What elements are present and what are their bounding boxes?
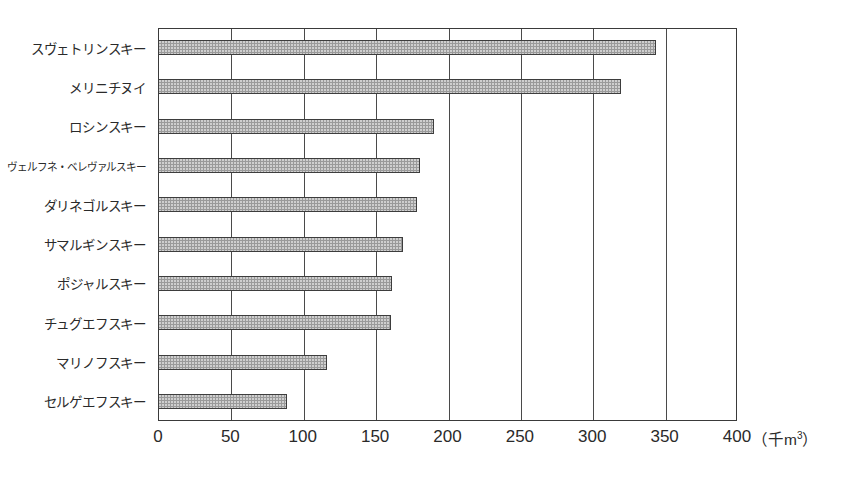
bar: [158, 119, 434, 134]
x-axis-tick-label: 200: [433, 427, 461, 447]
y-axis-tick: チュグエフスキー: [0, 303, 152, 342]
bar: [158, 40, 656, 55]
y-axis-tick-label: スヴェトリンスキー: [31, 38, 146, 58]
bar-row: [158, 303, 737, 342]
y-axis-tick-label: メリニチヌイ: [69, 77, 146, 97]
x-axis-tick-label: 100: [289, 427, 317, 447]
bar: [158, 79, 621, 94]
y-axis-tick: メリニチヌイ: [0, 67, 152, 106]
bar-row: [158, 342, 737, 381]
y-axis-tick-label: ロシンスキー: [69, 116, 146, 136]
x-axis-labels: 0 50 100 150 200 250 300 350 400 （千m3）: [0, 427, 845, 457]
bar-row: [158, 382, 737, 421]
bar-chart: スヴェトリンスキー メリニチヌイ ロシンスキー ヴェルフネ・ベレヴァルスキー ダ…: [0, 0, 845, 479]
y-axis-tick-label: チュグエフスキー: [44, 313, 146, 333]
y-axis-tick: ポジャルスキー: [0, 264, 152, 303]
x-axis-tick-label: 400: [723, 427, 751, 447]
y-axis-tick: サマルギンスキー: [0, 224, 152, 263]
bar-row: [158, 264, 737, 303]
bar: [158, 197, 417, 212]
bar: [158, 276, 392, 291]
bar-row: [158, 146, 737, 185]
bar-row: [158, 185, 737, 224]
bar: [158, 315, 391, 330]
bar-row: [158, 107, 737, 146]
x-axis-tick-label: 50: [221, 427, 240, 447]
y-axis-tick: ロシンスキー: [0, 107, 152, 146]
bar-row: [158, 224, 737, 263]
bar: [158, 158, 420, 173]
bar: [158, 355, 327, 370]
x-axis-unit-label: （千m3）: [752, 427, 818, 449]
y-axis-tick-label: サマルギンスキー: [44, 234, 146, 254]
y-axis-tick: セルゲエフスキー: [0, 382, 152, 421]
bar: [158, 237, 403, 252]
y-axis-tick: マリノフスキー: [0, 342, 152, 381]
y-axis-tick-label: マリノフスキー: [56, 352, 146, 372]
y-axis-labels: スヴェトリンスキー メリニチヌイ ロシンスキー ヴェルフネ・ベレヴァルスキー ダ…: [0, 28, 152, 421]
y-axis-tick: スヴェトリンスキー: [0, 28, 152, 67]
bar-row: [158, 28, 737, 67]
y-axis-tick-label: セルゲエフスキー: [44, 391, 146, 411]
x-axis-tick-label: 150: [361, 427, 389, 447]
bar: [158, 394, 287, 409]
x-axis-tick-label: 250: [506, 427, 534, 447]
bar-row: [158, 67, 737, 106]
x-axis-tick-label: 0: [153, 427, 162, 447]
x-axis-tick-label: 300: [578, 427, 606, 447]
y-axis-tick: ヴェルフネ・ベレヴァルスキー: [0, 146, 152, 185]
y-axis-tick: ダリネゴルスキー: [0, 185, 152, 224]
bars-layer: [158, 28, 737, 421]
y-axis-tick-label: ダリネゴルスキー: [44, 195, 146, 215]
y-axis-tick-label: ヴェルフネ・ベレヴァルスキー: [7, 158, 146, 174]
y-axis-tick-label: ポジャルスキー: [57, 273, 146, 293]
x-axis-tick-label: 350: [650, 427, 678, 447]
